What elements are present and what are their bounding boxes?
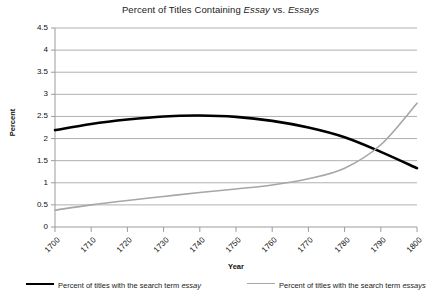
chart-container: Percent of Titles Containing Essay vs. E… xyxy=(0,0,441,299)
chart-legend: Percent of titles with the search term e… xyxy=(0,278,441,294)
series-line xyxy=(55,103,417,210)
plot-area xyxy=(0,0,441,299)
legend-label-essays: Percent of titles with the search term e… xyxy=(279,281,426,291)
legend-swatch-essays xyxy=(247,283,275,284)
legend-label-essay: Percent of titles with the search term e… xyxy=(58,281,201,291)
legend-swatch-essay xyxy=(26,283,54,285)
